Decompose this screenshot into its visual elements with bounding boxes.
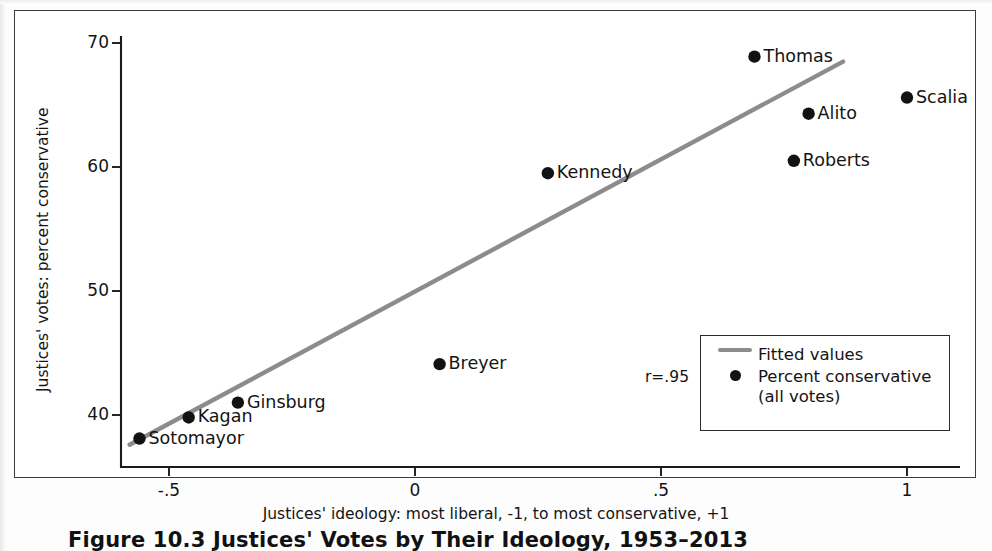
x-tick-label-0: 0: [385, 480, 445, 500]
point-label-alito: Alito: [818, 103, 857, 123]
y-tick-label-40: 40: [63, 404, 109, 424]
legend-row-fitted: Fitted values: [712, 345, 937, 365]
data-point-alito: [802, 107, 814, 119]
data-point-kagan: [182, 411, 194, 423]
legend-label-points: Percent conservative (all votes): [758, 367, 931, 407]
correlation-annotation: r=.95: [645, 368, 689, 386]
data-point-scalia: [901, 91, 913, 103]
fitted-line-swatch-icon: [712, 345, 758, 352]
point-marker-swatch-icon: [712, 367, 758, 381]
data-point-roberts: [788, 155, 800, 167]
data-point-breyer: [433, 358, 445, 370]
x-tick-label-0p5: .5: [631, 480, 691, 500]
legend-label-points-line1: Percent conservative: [758, 367, 931, 386]
point-label-kagan: Kagan: [198, 406, 253, 426]
y-axis-title: Justices' votes: percent conservative: [34, 107, 52, 392]
legend: Fitted values Percent conservative (all …: [700, 335, 950, 431]
legend-row-points: Percent conservative (all votes): [712, 367, 937, 407]
data-point-kennedy: [542, 167, 554, 179]
legend-label-points-line2: (all votes): [758, 387, 931, 407]
point-label-roberts: Roberts: [803, 150, 870, 170]
data-point-sotomayor: [133, 432, 145, 444]
y-tick-label-50: 50: [63, 280, 109, 300]
x-axis-title: Justices' ideology: most liberal, -1, to…: [0, 505, 992, 523]
x-tick-label-1: 1: [877, 480, 937, 500]
x-tick-label--0p5: -.5: [139, 480, 199, 500]
scatter-plot-canvas: [0, 0, 992, 551]
y-tick-label-60: 60: [63, 156, 109, 176]
point-label-breyer: Breyer: [449, 353, 507, 373]
figure-page: 40506070 -.50.51 SotomayorKaganGinsburgB…: [0, 0, 992, 551]
data-point-thomas: [748, 50, 760, 62]
point-label-scalia: Scalia: [916, 87, 968, 107]
legend-label-fitted: Fitted values: [758, 345, 863, 365]
figure-caption: Figure 10.3 Justices' Votes by Their Ide…: [68, 528, 748, 551]
point-label-sotomayor: Sotomayor: [148, 428, 243, 448]
point-label-thomas: Thomas: [763, 46, 832, 66]
y-tick-label-70: 70: [63, 32, 109, 52]
point-label-kennedy: Kennedy: [557, 162, 633, 182]
point-label-ginsburg: Ginsburg: [247, 392, 326, 412]
